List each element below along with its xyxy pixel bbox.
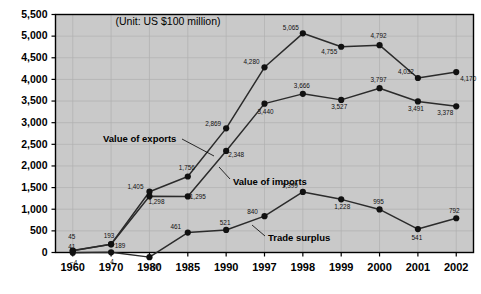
x-tick-label-1990: 1990: [214, 261, 238, 273]
y-tick-label-4000: 4,000: [21, 73, 47, 85]
data-point: [415, 226, 421, 232]
y-tick-label-3500: 3,500: [21, 94, 47, 106]
data-point-label: 1,228: [334, 203, 350, 210]
series-annotation-imports: Value of imports: [233, 176, 307, 187]
y-tick-label-5000: 5,000: [21, 29, 47, 41]
data-point-label: 3,527: [331, 103, 347, 110]
data-point: [453, 69, 459, 75]
data-point-label: 1,756: [179, 164, 195, 171]
y-tick-label-5500: 5,500: [21, 8, 47, 20]
data-point-label: 41: [68, 243, 76, 250]
data-point: [108, 249, 114, 255]
x-tick-label-2001: 2001: [406, 261, 430, 273]
data-point-label: 4,280: [244, 58, 260, 65]
data-point: [300, 189, 306, 195]
data-point: [338, 196, 344, 202]
data-point: [338, 44, 344, 50]
data-point-label: 995: [373, 198, 384, 205]
y-tick-label-500: 500: [30, 224, 48, 236]
data-point: [453, 103, 459, 109]
data-point-label: 2,869: [205, 120, 221, 127]
data-point: [185, 229, 191, 235]
data-point-label: 3,666: [294, 82, 310, 89]
data-point-label: 3,797: [371, 76, 387, 83]
data-point-label: 3,440: [258, 108, 274, 115]
data-point-label: 4,755: [321, 48, 337, 55]
y-tick-label-0: 0: [42, 246, 48, 258]
data-point: [223, 125, 229, 131]
data-point: [376, 42, 382, 48]
data-point-label: 4,170: [460, 75, 476, 82]
data-point-label: 792: [449, 207, 460, 214]
data-point: [185, 173, 191, 179]
data-point: [300, 30, 306, 36]
data-point: [70, 250, 76, 256]
data-point-label: 3,378: [437, 109, 453, 116]
data-point-label: 193: [104, 232, 115, 239]
x-tick-label-2002: 2002: [444, 261, 468, 273]
data-point: [376, 206, 382, 212]
data-point: [376, 85, 382, 91]
data-point-label: 461: [170, 223, 181, 230]
data-point-label: 521: [220, 219, 231, 226]
x-tick-label-1985: 1985: [176, 261, 200, 273]
data-point-label: 45: [68, 233, 76, 240]
y-tick-label-4500: 4,500: [21, 51, 47, 63]
data-point: [223, 227, 229, 233]
y-tick-label-2000: 2,000: [21, 159, 47, 171]
data-point-label: 1,298: [148, 198, 164, 205]
x-tick-label-2000: 2000: [367, 261, 391, 273]
data-point-label: 1,295: [190, 193, 206, 200]
data-point-label: 840: [247, 208, 258, 215]
data-point: [146, 254, 152, 260]
data-point: [261, 64, 267, 70]
y-tick-label-3000: 3,000: [21, 116, 47, 128]
data-point: [300, 91, 306, 97]
trade-line-chart: 05001,0001,5002,0002,5003,0003,5004,0004…: [0, 0, 481, 294]
data-point-label: 2,348: [228, 151, 244, 158]
y-tick-label-1000: 1,000: [21, 203, 47, 215]
data-point-label: 541: [412, 234, 423, 241]
data-point-label: 4,032: [398, 68, 414, 75]
data-point-label: 4,792: [371, 32, 387, 39]
y-tick-label-1500: 1,500: [21, 181, 47, 193]
y-tick-label-2500: 2,500: [21, 138, 47, 150]
x-tick-label-1997: 1997: [252, 261, 276, 273]
unit-annotation: (Unit: US $100 million): [115, 15, 220, 27]
data-point-label: 189: [115, 242, 126, 249]
data-point-label: 5,065: [283, 24, 299, 31]
data-point-label: 4: [110, 258, 114, 265]
data-point-label: −107: [145, 263, 160, 270]
data-point: [108, 241, 114, 247]
data-point: [261, 213, 267, 219]
data-point: [453, 215, 459, 221]
x-tick-label-1998: 1998: [291, 261, 315, 273]
x-tick-label-1999: 1999: [329, 261, 353, 273]
data-point-label: 3,491: [408, 105, 424, 112]
data-point-label: −4: [70, 259, 78, 266]
series-annotation-surplus: Trade surplus: [268, 232, 330, 243]
series-annotation-exports: Value of exports: [103, 133, 176, 144]
data-point: [261, 101, 267, 107]
data-point: [415, 98, 421, 104]
data-point-label: 1,405: [127, 183, 143, 190]
data-point: [415, 75, 421, 81]
chart-canvas: 05001,0001,5002,0002,5003,0003,5004,0004…: [0, 0, 481, 294]
